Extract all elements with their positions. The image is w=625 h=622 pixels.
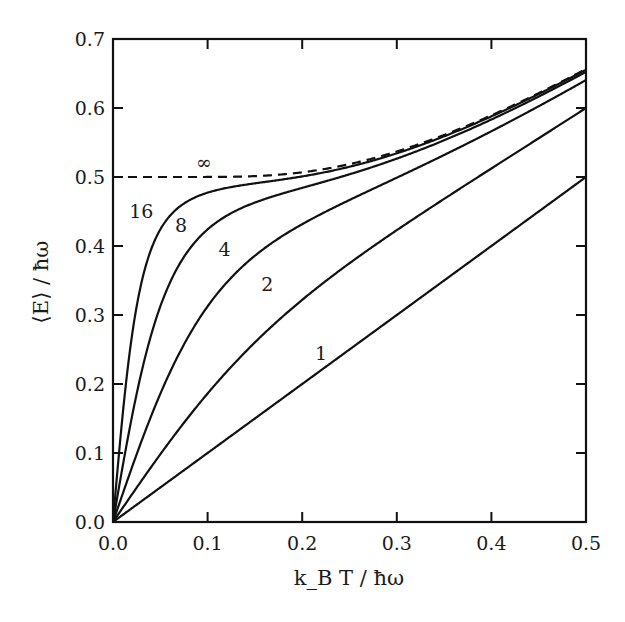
x-tick-label: 0.0 [98, 532, 128, 554]
y-tick-label: 0.4 [75, 235, 105, 257]
curve-infinity [113, 69, 586, 177]
curve-label-infinity: ∞ [196, 151, 212, 173]
curve-label-p4: 4 [219, 238, 231, 260]
y-tick-label: 0.2 [75, 373, 105, 395]
curves [113, 69, 586, 522]
chart: 0.00.10.20.30.40.50.00.10.20.30.40.50.60… [0, 0, 625, 622]
curve-p16 [113, 70, 586, 522]
y-tick-label: 0.7 [75, 28, 105, 50]
curve-p8 [113, 72, 586, 522]
y-axis-title: ⟨E⟩ / ħω [29, 241, 53, 324]
axis-ticks: 0.00.10.20.30.40.50.00.10.20.30.40.50.60… [75, 28, 601, 554]
plot-frame [113, 39, 586, 522]
y-tick-label: 0.1 [75, 442, 105, 464]
x-tick-label: 0.1 [192, 532, 222, 554]
curve-labels: 124816∞ [129, 151, 327, 364]
y-tick-label: 0.6 [75, 97, 105, 119]
x-tick-label: 0.4 [476, 532, 506, 554]
y-tick-label: 0.5 [75, 166, 105, 188]
curve-label-p2: 2 [261, 273, 273, 295]
curve-label-p1: 1 [315, 342, 327, 364]
y-tick-label: 0.0 [75, 511, 105, 533]
y-tick-label: 0.3 [75, 304, 105, 326]
curve-label-p8: 8 [175, 214, 187, 236]
curve-p2 [113, 108, 586, 522]
x-axis-title: k_B T / ħω [294, 566, 404, 590]
x-tick-label: 0.2 [287, 532, 317, 554]
curve-label-p16: 16 [129, 200, 153, 222]
curve-p4 [113, 80, 586, 522]
x-tick-label: 0.3 [382, 532, 412, 554]
x-tick-label: 0.5 [571, 532, 601, 554]
